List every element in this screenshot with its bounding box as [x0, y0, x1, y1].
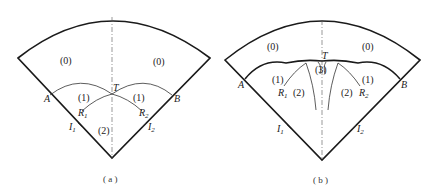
point-label-B-a: B	[174, 93, 180, 104]
region-label-left-outer-a: (0)	[60, 55, 72, 67]
diagram-b: (0) (0) (1) (1) (2) (2) (3) A B T R1 R2 …	[225, 20, 420, 185]
point-label-I1-b: I1	[276, 123, 284, 136]
curve-R2-b	[338, 63, 360, 86]
figure-canvas: (0) (0) (1) (1) (2) A B T R1 R2 I1 I2 ( …	[0, 0, 436, 193]
diagram-a: (0) (0) (1) (1) (2) A B T R1 R2 I1 I2 ( …	[18, 17, 210, 184]
region-label-right-lower-b: (2)	[341, 87, 353, 99]
point-label-T-a: T	[113, 82, 120, 93]
region-label-right-mid-a: (1)	[133, 92, 145, 104]
region-label-center-b: (3)	[315, 64, 327, 76]
point-label-T-b: T	[322, 50, 329, 61]
region-label-left-mid-a: (1)	[78, 92, 90, 104]
region-label-left-mid-b: (1)	[272, 74, 284, 86]
caption-b: ( b )	[313, 175, 328, 185]
point-label-A-a: A	[43, 93, 51, 104]
curve-R1-b	[284, 63, 306, 86]
region-label-right-outer-b: (0)	[362, 41, 374, 53]
point-label-R2-a: R2	[138, 107, 149, 120]
region-label-bottom-a: (2)	[98, 125, 110, 137]
point-label-R1-b: R1	[277, 87, 288, 100]
point-label-I1-a: I1	[68, 121, 76, 134]
region-label-left-outer-b: (0)	[267, 41, 279, 53]
region-label-right-mid-b: (1)	[362, 74, 374, 86]
point-label-A-b: A	[237, 79, 245, 90]
point-label-I2-b: I2	[356, 123, 364, 136]
curve-inner-right-b	[328, 63, 338, 110]
point-label-R1-a: R1	[77, 107, 88, 120]
point-label-I2-a: I2	[147, 121, 155, 134]
point-label-B-b: B	[401, 79, 407, 90]
region-label-left-lower-b: (2)	[293, 87, 305, 99]
caption-a: ( a )	[103, 174, 118, 184]
point-label-R2-b: R2	[358, 87, 369, 100]
region-label-right-outer-a: (0)	[153, 56, 165, 68]
sector-outline-b	[225, 21, 420, 160]
